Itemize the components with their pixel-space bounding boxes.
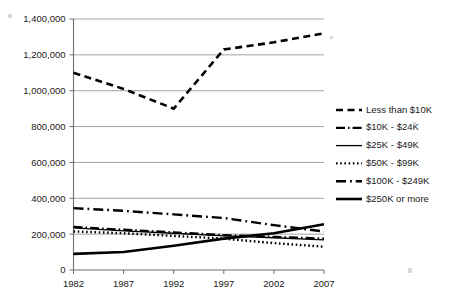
legend-item-1[interactable]: $10K - $24K xyxy=(336,121,419,132)
legend-item-2[interactable]: $25K - $49K xyxy=(336,139,419,150)
x-axis-tick-labels: 198219871992199720022007 xyxy=(63,278,335,289)
data-series-lines xyxy=(74,33,325,254)
y-tick-label: 200,000 xyxy=(31,229,65,240)
income-distribution-line-chart: 1,400,0001,200,0001,000,000800,000600,00… xyxy=(0,0,455,307)
x-tick-label: 1982 xyxy=(63,278,84,289)
y-tick-label: 800,000 xyxy=(31,121,65,132)
x-tick-label: 2002 xyxy=(263,278,284,289)
chart-canvas: 1,400,0001,200,0001,000,000800,000600,00… xyxy=(0,0,455,307)
legend-item-3[interactable]: $50K - $99K xyxy=(336,157,419,168)
legend-label-2: $25K - $49K xyxy=(366,139,419,150)
y-tick-label: 1,400,000 xyxy=(23,13,65,24)
legend-item-0[interactable]: Less than $10K xyxy=(336,104,433,115)
y-axis-tick-labels: 1,400,0001,200,0001,000,000800,000600,00… xyxy=(23,13,65,275)
x-tick-label: 1992 xyxy=(163,278,184,289)
series-line-1 xyxy=(74,227,325,239)
legend-item-5[interactable]: $250K or more xyxy=(336,193,429,204)
legend-item-4[interactable]: $100K - $249K xyxy=(336,175,430,186)
legend-label-3: $50K - $99K xyxy=(366,157,419,168)
legend-label-0: Less than $10K xyxy=(366,104,433,115)
gridlines xyxy=(74,19,325,234)
x-tick-label: 2007 xyxy=(313,278,334,289)
legend-label-5: $250K or more xyxy=(366,193,429,204)
legend-label-1: $10K - $24K xyxy=(366,121,419,132)
y-tick-label: 0 xyxy=(60,264,65,275)
x-tick-label: 1997 xyxy=(213,278,234,289)
y-tick-label: 400,000 xyxy=(31,193,65,204)
chart-axes xyxy=(70,19,325,274)
x-tick-label: 1987 xyxy=(113,278,134,289)
y-tick-label: 1,200,000 xyxy=(23,49,65,60)
legend-label-4: $100K - $249K xyxy=(366,175,430,186)
chart-legend: Less than $10K$10K - $24K$25K - $49K$50K… xyxy=(336,104,433,204)
y-tick-label: 600,000 xyxy=(31,157,65,168)
y-tick-label: 1,000,000 xyxy=(23,85,65,96)
series-line-0 xyxy=(74,33,325,108)
